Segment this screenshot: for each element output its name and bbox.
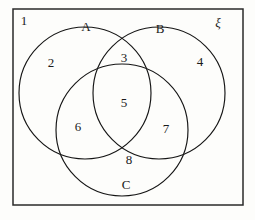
set-label-b: B <box>156 21 165 36</box>
universal-set-label: ξ <box>215 15 221 30</box>
region-label-a-and-b-and-c: 5 <box>121 95 128 110</box>
venn-diagram-canvas: ξ A B C 1 2 3 4 5 6 7 8 <box>0 0 255 220</box>
region-label-a-and-b-only: 3 <box>121 50 128 65</box>
region-label-outside-all: 1 <box>21 13 28 28</box>
region-label-b-and-c-only: 7 <box>163 121 170 136</box>
set-label-a: A <box>81 19 91 34</box>
region-label-b-only: 4 <box>197 54 204 69</box>
set-label-c: C <box>122 177 131 192</box>
venn-diagram-figure: ξ A B C 1 2 3 4 5 6 7 8 <box>0 0 255 220</box>
region-label-c-only: 8 <box>126 152 133 167</box>
region-label-a-only: 2 <box>48 55 55 70</box>
region-label-a-and-c-only: 6 <box>75 119 82 134</box>
